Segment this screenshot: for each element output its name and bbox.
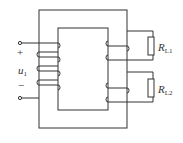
- primary-winding: [37, 43, 60, 90]
- minus-sign: −: [18, 80, 24, 91]
- input-terminal-bottom: [18, 96, 21, 99]
- input-voltage-subscript: 1: [24, 70, 28, 78]
- input-voltage-label: u1: [18, 65, 27, 78]
- resistor-rl2: [148, 79, 154, 97]
- transformer-diagram: [0, 0, 183, 143]
- plus-sign: +: [17, 47, 23, 58]
- rl1-subscript: L1: [165, 47, 173, 55]
- rl2-symbol: R: [158, 83, 165, 95]
- resistor-rl1: [148, 37, 154, 55]
- input-terminal-top: [18, 41, 21, 44]
- rl1-symbol: R: [158, 41, 165, 53]
- secondary-winding-1: [106, 31, 153, 60]
- rl2-subscript: L2: [165, 89, 173, 97]
- rl2-label: RL2: [158, 84, 173, 97]
- core-window: [58, 28, 108, 110]
- secondary-winding-2: [106, 72, 153, 102]
- rl1-label: RL1: [158, 42, 173, 55]
